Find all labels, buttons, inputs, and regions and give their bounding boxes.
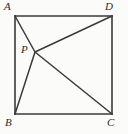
geometry-canvas [0, 0, 128, 134]
geometry-figure: A D B C P [0, 0, 128, 134]
vertex-label-p: P [21, 44, 28, 55]
vertex-label-d: D [105, 1, 113, 12]
cevian-PB [15, 52, 35, 114]
cevian-PD [35, 16, 112, 52]
vertex-label-b: B [5, 117, 12, 128]
vertex-label-c: C [107, 117, 114, 128]
vertex-label-a: A [4, 1, 11, 12]
cevian-PC [35, 52, 112, 114]
